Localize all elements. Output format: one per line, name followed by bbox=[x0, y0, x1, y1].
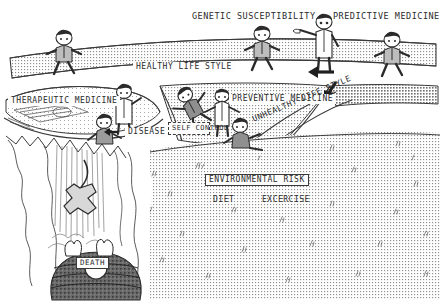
label-healthy-life-style: HEALTHY LIFE STYLE bbox=[133, 62, 235, 72]
label-genetic-susceptibility: GENETIC SUSCEPTIBILITY bbox=[192, 12, 316, 21]
scene-artwork bbox=[0, 0, 442, 308]
figure-walker-upper-center bbox=[245, 26, 279, 70]
label-therapeutic-medicine: THERAPEUTIC MEDICINE bbox=[8, 96, 120, 106]
label-predictive-medicine: PREDICTIVE MEDICINE bbox=[333, 12, 440, 21]
label-disease: DISEASE bbox=[125, 127, 168, 137]
label-self-control: SELF CONTROL bbox=[168, 122, 210, 135]
region-lower-plain bbox=[150, 132, 440, 300]
label-death: DEATH bbox=[76, 257, 109, 269]
illustration-canvas: GENETIC SUSCEPTIBILITY PREDICTIVE MEDICI… bbox=[0, 0, 442, 308]
label-environmental-risk: ENVIRONMENTAL RISK bbox=[205, 174, 309, 186]
figure-walker-upper-right bbox=[375, 32, 409, 76]
label-diet: DIET bbox=[213, 196, 234, 204]
label-excercise: EXCERCISE bbox=[262, 196, 310, 204]
